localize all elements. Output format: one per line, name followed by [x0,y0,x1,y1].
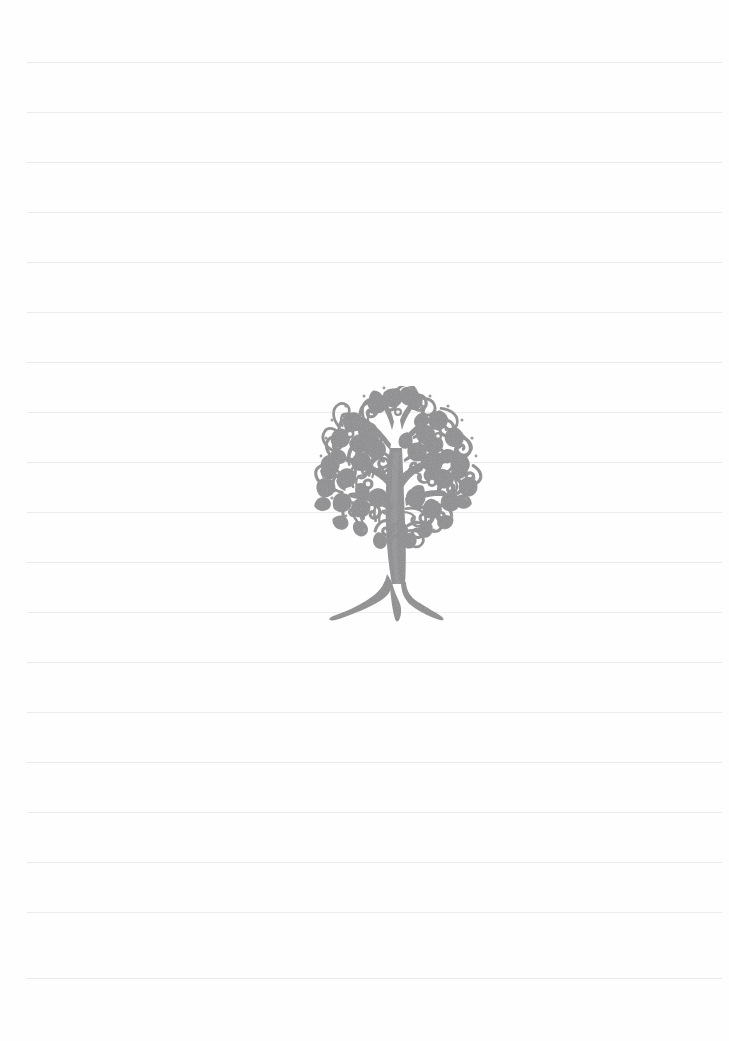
rule-line [27,62,722,63]
rule-line [27,562,722,563]
ruled-lines [0,0,729,1041]
rule-line [27,212,722,213]
rule-line [27,262,722,263]
rule-line [27,362,722,363]
rule-line [27,978,722,979]
rule-line [27,712,722,713]
rule-line [27,762,722,763]
rule-line [27,112,722,113]
decorative-tree-illustration [306,386,492,626]
rule-line [27,462,722,463]
rule-line [27,412,722,413]
rule-line [27,162,722,163]
rule-line [27,812,722,813]
rule-line [27,312,722,313]
rule-line [27,612,722,613]
rule-line [27,662,722,663]
rule-line [27,512,722,513]
rule-line [27,862,722,863]
rule-line [27,912,722,913]
notebook-page [0,0,729,1041]
